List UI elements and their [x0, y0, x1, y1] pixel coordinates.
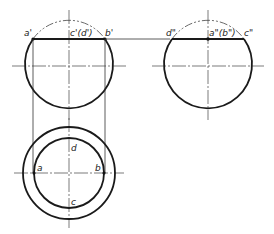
label-d: d — [71, 143, 77, 153]
label-a: a — [37, 163, 43, 173]
label-a-double-prime-b-double-prime: a"(b") — [209, 28, 236, 38]
side-view: d" a"(b") c" — [152, 10, 264, 120]
front-view: a' c'(d') b' — [12, 10, 126, 120]
top-point-b — [102, 171, 105, 174]
top-view: a b d c — [14, 118, 124, 228]
label-c-prime-d-prime: c'(d') — [70, 28, 93, 38]
label-d-double-prime: d" — [166, 28, 176, 38]
label-b-prime: b' — [105, 28, 113, 38]
label-b: b — [95, 163, 101, 173]
label-a-prime: a' — [24, 28, 32, 38]
top-point-a — [32, 171, 35, 174]
projection-drawing: a' c'(d') b' d" a"(b") c" a b d c — [0, 0, 274, 234]
label-c: c — [71, 197, 76, 207]
label-c-double-prime: c" — [244, 28, 253, 38]
